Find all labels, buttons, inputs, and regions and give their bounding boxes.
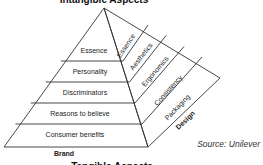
bottom-title: Tangible Aspects — [71, 161, 153, 165]
brand-layer-1: Essence — [81, 47, 108, 54]
brand-design-pyramid: Intangible Aspects Essence Personality D… — [0, 0, 263, 165]
design-face — [104, 8, 220, 147]
brand-label: Brand — [54, 150, 74, 157]
brand-layer-5: Consumer benefits — [46, 131, 105, 138]
source-note: Source: Unilever — [197, 139, 261, 149]
brand-layer-2: Personality — [73, 68, 108, 76]
brand-layer-4: Reasons to believe — [50, 110, 110, 117]
design-layer-3: Ergonomics — [141, 55, 171, 89]
design-label: Design — [174, 110, 196, 132]
brand-layer-3: Discriminators — [63, 89, 108, 96]
top-title: Intangible Aspects — [60, 0, 149, 5]
